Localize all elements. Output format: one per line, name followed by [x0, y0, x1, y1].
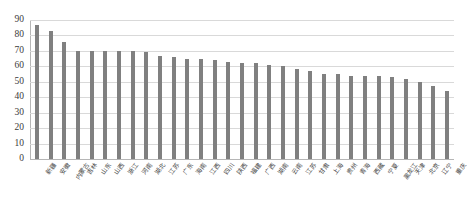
y-tick-label: 70	[15, 46, 25, 56]
bar[interactable]	[76, 51, 80, 159]
x-tick-label: 重庆	[455, 162, 467, 176]
x-tick-label: 北京	[428, 162, 440, 176]
bar-slot	[358, 20, 372, 159]
y-tick-label: 40	[15, 92, 25, 102]
x-tick-label: 甘肃	[318, 162, 330, 176]
y-tick-label: 90	[15, 15, 25, 25]
bar[interactable]	[185, 59, 189, 159]
bar[interactable]	[322, 74, 326, 159]
bar-slot	[208, 20, 222, 159]
x-tick-label: 浙江	[127, 162, 139, 176]
bar-slot	[112, 20, 126, 159]
bar-slot	[71, 20, 85, 159]
bar-slot	[194, 20, 208, 159]
bar[interactable]	[363, 76, 367, 159]
bar-slot	[399, 20, 413, 159]
bar[interactable]	[295, 69, 299, 159]
bar[interactable]	[240, 63, 244, 159]
bar-slot	[290, 20, 304, 159]
bar[interactable]	[213, 60, 217, 159]
bar-slot	[139, 20, 153, 159]
bar[interactable]	[199, 59, 203, 159]
bar[interactable]	[336, 74, 340, 159]
bar[interactable]	[281, 66, 285, 159]
bar[interactable]	[144, 52, 148, 159]
bar-slot	[317, 20, 331, 159]
bar-slot	[331, 20, 345, 159]
bar[interactable]	[431, 86, 435, 159]
bar-slot	[263, 20, 277, 159]
x-tick-label: 广东	[182, 162, 194, 176]
bar-slot	[57, 20, 71, 159]
bar[interactable]	[49, 31, 53, 159]
x-tick-label: 湖北	[154, 162, 166, 176]
x-tick-label: 四川	[223, 162, 235, 176]
bar-slot	[44, 20, 58, 159]
bar-slot	[30, 20, 44, 159]
bar-slot	[85, 20, 99, 159]
bar-slot	[235, 20, 249, 159]
bar[interactable]	[349, 76, 353, 159]
bar[interactable]	[131, 51, 135, 159]
bar[interactable]	[90, 51, 94, 159]
bar-slot	[372, 20, 386, 159]
bar-slot	[427, 20, 441, 159]
bar-slot	[304, 20, 318, 159]
bar[interactable]	[254, 63, 258, 159]
y-tick-label: 60	[15, 62, 25, 72]
bar-slot	[180, 20, 194, 159]
x-tick-label: 山西	[113, 162, 125, 176]
x-tick-label: 江苏	[305, 162, 317, 176]
x-tick-label: 云南	[291, 162, 303, 176]
x-tick-label: 广西	[264, 162, 276, 176]
bar[interactable]	[404, 79, 408, 159]
bar-slot	[221, 20, 235, 159]
bar-slot	[276, 20, 290, 159]
bar-series	[30, 20, 454, 159]
x-tick-label: 福建	[250, 162, 262, 176]
bar[interactable]	[390, 77, 394, 159]
y-tick-label: 30	[15, 108, 25, 118]
bar-slot	[98, 20, 112, 159]
x-tick-label: 山东	[100, 162, 112, 176]
y-tick-label: 0	[19, 154, 24, 164]
x-tick-label: 西藏	[373, 162, 385, 176]
x-tick-label: 青海	[360, 162, 372, 176]
bar[interactable]	[117, 51, 121, 159]
bar-slot	[413, 20, 427, 159]
x-tick-label: 辽宁	[442, 162, 454, 176]
bar[interactable]	[418, 82, 422, 159]
bar-slot	[126, 20, 140, 159]
bar[interactable]	[158, 56, 162, 159]
x-tick-label: 湖南	[277, 162, 289, 176]
x-tick-label: 江西	[209, 162, 221, 176]
x-tick-label: 宁夏	[387, 162, 399, 176]
y-axis-tick-labels: 0102030405060708090	[0, 0, 28, 212]
bar[interactable]	[377, 76, 381, 159]
y-tick-label: 10	[15, 139, 25, 149]
y-tick-label: 50	[15, 77, 25, 87]
bar[interactable]	[445, 91, 449, 159]
y-tick-label: 20	[15, 123, 25, 133]
bar[interactable]	[308, 71, 312, 159]
bar-slot	[167, 20, 181, 159]
bar[interactable]	[35, 25, 39, 159]
bar[interactable]	[226, 62, 230, 159]
bar-slot	[386, 20, 400, 159]
bar-slot	[345, 20, 359, 159]
bar-slot	[440, 20, 454, 159]
x-tick-label: 安徽	[59, 162, 71, 176]
y-tick-label: 80	[15, 31, 25, 41]
bar[interactable]	[103, 51, 107, 159]
x-axis-category-labels: 新疆安徽内蒙古吉林山东山西浙江河南湖北江苏广东海南江西四川陕西福建广西湖南云南江…	[30, 160, 454, 212]
bar[interactable]	[62, 42, 66, 159]
x-tick-label: 新疆	[45, 162, 57, 176]
bar-slot	[153, 20, 167, 159]
x-tick-label: 上海	[332, 162, 344, 176]
x-tick-label: 江苏	[168, 162, 180, 176]
x-tick-label: 河南	[141, 162, 153, 176]
bar[interactable]	[267, 65, 271, 159]
bar[interactable]	[172, 57, 176, 159]
bar-slot	[249, 20, 263, 159]
